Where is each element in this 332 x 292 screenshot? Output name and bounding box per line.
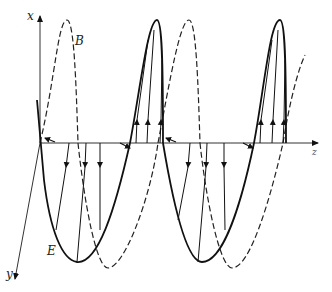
b-curve-label: B (74, 34, 84, 48)
y-axis-label: y (5, 267, 13, 281)
y-axis (15, 143, 40, 279)
x-axis-label: x (27, 9, 34, 23)
z-axis-label: z (311, 147, 317, 157)
e-field-vectors-down (56, 143, 225, 262)
em-wave-diagram: x z y (0, 0, 332, 292)
axes (15, 16, 318, 279)
e-curve-label: E (46, 244, 56, 258)
